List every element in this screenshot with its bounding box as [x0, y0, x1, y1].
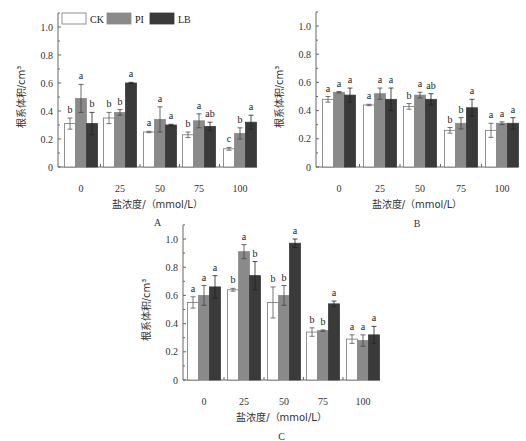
y-tick-label: 0 [173, 375, 178, 386]
significance-letter: b [253, 248, 258, 259]
bar-CK-100 [224, 149, 235, 167]
significance-letter: a [511, 104, 516, 115]
legend-label-LB: LB [178, 14, 191, 25]
y-tick-label: 0 [48, 162, 53, 173]
significance-letter: a [197, 100, 202, 111]
bar-CK-0 [188, 302, 199, 380]
panel-label: A [154, 217, 162, 228]
bar-PI-50 [415, 95, 426, 167]
y-tick-label: 0.4 [41, 106, 54, 117]
bar-PI-25 [239, 252, 250, 380]
bar-LB-0 [210, 287, 221, 380]
panel-label: C [278, 431, 285, 441]
x-tick-label: 50 [155, 183, 165, 194]
y-tick-label: 1.0 [299, 21, 312, 32]
significance-letter: b [282, 272, 287, 283]
chart-panel-A: 00.20.40.60.81.0bab0bba25aaa50baab75cba1… [15, 13, 257, 228]
significance-letter: a [191, 283, 196, 294]
significance-letter: a [326, 83, 331, 94]
x-tick-label: 25 [115, 183, 125, 194]
significance-letter: a [378, 74, 383, 85]
x-tick-label: 50 [415, 183, 425, 194]
x-tick-label: 25 [239, 396, 249, 407]
x-tick-label: 75 [194, 183, 204, 194]
y-tick-label: 0.8 [299, 49, 312, 60]
y-tick-label: 0 [306, 162, 311, 173]
bar-CK-100 [347, 339, 358, 380]
significance-letter: a [348, 74, 353, 85]
panel-label: B [414, 218, 421, 229]
significance-letter: a [361, 321, 366, 332]
bar-LB-50 [166, 125, 177, 167]
y-tick-label: 0.6 [41, 78, 54, 89]
significance-letter: a [129, 68, 134, 79]
significance-letter: b [68, 104, 73, 115]
bar-CK-75 [445, 130, 456, 167]
y-tick-label: 1.0 [166, 234, 179, 245]
significance-letter: a [372, 312, 377, 323]
figure: 00.20.40.60.81.0bab0bba25aaa50baab75cba1… [0, 0, 526, 441]
x-axis-label: 盐浓度/（mmol/L） [112, 198, 203, 210]
legend-swatch-PI [107, 13, 131, 24]
significance-letter: b [118, 96, 123, 107]
legend-label-PI: PI [135, 14, 144, 25]
bar-PI-25 [375, 94, 386, 167]
bar-LB-100 [508, 123, 519, 167]
significance-letter: a [389, 74, 394, 85]
x-tick-label: 75 [456, 183, 466, 194]
x-axis-label: 盐浓度/（mmol/L） [236, 411, 327, 423]
significance-letter: a [158, 93, 163, 104]
bar-PI-75 [456, 123, 467, 167]
bar-LB-25 [126, 83, 137, 167]
significance-letter: a [500, 108, 505, 119]
bar-PI-100 [497, 123, 508, 167]
significance-letter: a [418, 78, 423, 89]
y-tick-label: 0.6 [299, 77, 312, 88]
y-axis-label: 根系体积/cm³ [15, 66, 27, 129]
y-tick-label: 1.0 [41, 22, 54, 33]
y-tick-label: 0.8 [166, 262, 179, 273]
bar-CK-0 [323, 99, 334, 167]
bar-LB-75 [205, 126, 216, 167]
bar-LB-0 [345, 95, 356, 167]
bar-CK-75 [183, 135, 194, 167]
bar-LB-75 [467, 108, 478, 167]
y-axis-label: 根系体积/cm³ [140, 279, 152, 342]
significance-letter: b [407, 90, 412, 101]
significance-letter: a [470, 85, 475, 96]
bar-CK-25 [228, 290, 239, 380]
significance-letter: b [231, 274, 236, 285]
y-tick-label: 0.4 [299, 105, 312, 116]
significance-letter: a [332, 287, 337, 298]
y-axis-label: 根系体积/cm³ [273, 66, 285, 129]
significance-letter: a [293, 225, 298, 236]
significance-letter: b [90, 98, 95, 109]
significance-letter: a [213, 262, 218, 273]
x-tick-label: 100 [495, 183, 510, 194]
significance-letter: b [271, 273, 276, 284]
x-tick-label: 50 [279, 396, 289, 407]
chart-panel-B: 00.20.40.60.81.0aaa0aaa25baab50bba75aaa1… [273, 12, 519, 229]
significance-letter: a [147, 117, 152, 128]
x-tick-label: 100 [233, 183, 248, 194]
bar-PI-50 [279, 295, 290, 380]
significance-letter: b [448, 114, 453, 125]
significance-letter: a [249, 101, 254, 112]
bar-PI-75 [318, 331, 329, 380]
significance-letter: a [242, 231, 247, 242]
significance-letter: b [107, 98, 112, 109]
y-tick-label: 0.2 [299, 133, 312, 144]
bar-LB-25 [250, 276, 261, 380]
bar-CK-25 [104, 118, 115, 167]
significance-letter: a [337, 78, 342, 89]
y-tick-label: 0.6 [166, 290, 179, 301]
significance-letter: b [321, 316, 326, 327]
y-tick-label: 0.4 [166, 318, 179, 329]
bar-LB-50 [290, 243, 301, 380]
legend-swatch-CK [62, 13, 86, 24]
bar-PI-25 [115, 112, 126, 167]
bar-CK-75 [307, 332, 318, 380]
y-tick-label: 0.2 [41, 134, 54, 145]
significance-letter: a [350, 321, 355, 332]
significance-letter: a [79, 70, 84, 81]
